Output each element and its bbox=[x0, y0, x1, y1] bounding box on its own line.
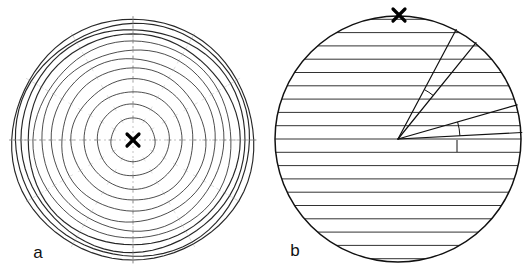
figure-canvas: a b bbox=[0, 0, 530, 274]
panel-a-label: a bbox=[33, 243, 43, 262]
figure-root: a b bbox=[0, 0, 530, 274]
panel-b-label: b bbox=[290, 241, 299, 260]
